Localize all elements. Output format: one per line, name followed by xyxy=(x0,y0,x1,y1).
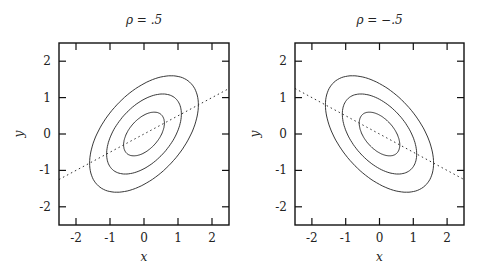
y-tick-label: 0 xyxy=(43,127,51,141)
contour-chart-figure: ρ = .5-2-1012-2-1012xyρ = −.5-2-1012-2-1… xyxy=(0,0,487,270)
x-tick-label: -2 xyxy=(70,231,82,245)
x-tick-label: 1 xyxy=(409,231,417,245)
y-tick-label: 1 xyxy=(43,91,51,105)
x-tick-label: 0 xyxy=(376,231,384,245)
contour-middle xyxy=(107,94,182,174)
plot-frame xyxy=(59,43,229,225)
y-tick-label: 2 xyxy=(279,54,287,68)
x-tick-label: 1 xyxy=(174,231,182,245)
x-tick-label: 2 xyxy=(443,231,451,245)
panel-title: ρ = −.5 xyxy=(355,13,402,27)
x-axis-label: x xyxy=(376,250,383,264)
x-tick-label: 0 xyxy=(140,231,148,245)
x-tick-label: -2 xyxy=(306,231,318,245)
y-axis-label: y xyxy=(248,130,262,138)
y-tick-label: 1 xyxy=(279,91,287,105)
y-axis-label: y xyxy=(12,130,26,138)
x-tick-label: 2 xyxy=(208,231,216,245)
y-tick-label: -1 xyxy=(275,163,287,177)
y-tick-label: -2 xyxy=(275,200,287,214)
plot-panel-1: ρ = .5-2-1012-2-1012xy xyxy=(12,13,229,264)
plot-panel-2: ρ = −.5-2-1012-2-1012xy xyxy=(248,13,464,264)
regression-line xyxy=(295,89,464,180)
x-axis-label: x xyxy=(141,250,148,264)
x-tick-label: -1 xyxy=(104,231,116,245)
y-tick-label: -2 xyxy=(39,200,51,214)
regression-line xyxy=(59,89,229,180)
contour-outer xyxy=(90,76,199,192)
x-tick-label: -1 xyxy=(340,231,352,245)
y-tick-label: 0 xyxy=(279,127,287,141)
y-tick-label: -1 xyxy=(39,163,51,177)
panel-title: ρ = .5 xyxy=(125,13,162,27)
contour-inner xyxy=(124,112,165,156)
y-tick-label: 2 xyxy=(43,54,51,68)
